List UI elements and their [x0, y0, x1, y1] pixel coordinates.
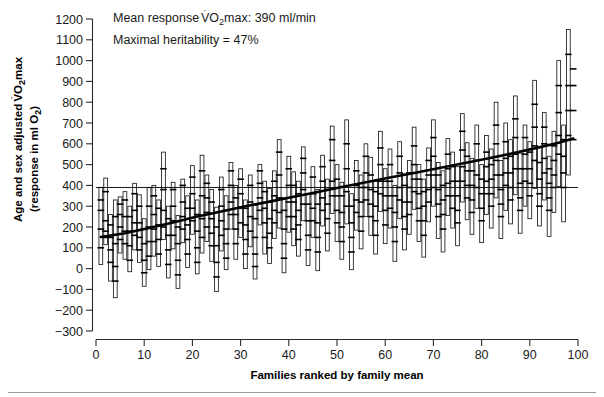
y-tick-label-200: 200: [62, 221, 83, 235]
family-range-bar: [364, 144, 368, 217]
x-tick-label-100: 100: [568, 348, 589, 362]
family-range-bar: [393, 185, 397, 261]
x-tick-label-0: 0: [93, 348, 100, 362]
family-range-bar: [244, 200, 248, 269]
x-tick-label-10: 10: [137, 348, 151, 362]
family-range-bar: [345, 120, 349, 224]
y-tick-label-0: 0: [76, 262, 83, 276]
y-tick-label-100: 100: [62, 241, 83, 255]
x-axis-tick-labels: 0102030405060708090100: [93, 348, 589, 362]
family-range-bar: [229, 163, 233, 230]
x-tick-label-40: 40: [282, 348, 296, 362]
family-range-bar: [219, 177, 223, 251]
family-range-bar: [412, 127, 416, 209]
family-range-bar: [388, 149, 392, 228]
x-tick-label-60: 60: [378, 348, 392, 362]
family-range-bar: [205, 175, 209, 242]
family-range-bars: [99, 29, 570, 297]
family-range-bar: [518, 153, 522, 233]
family-range-bar: [533, 80, 537, 188]
family-range-bar: [456, 167, 460, 246]
x-tick-label-30: 30: [234, 348, 248, 362]
family-range-bar: [350, 194, 354, 270]
family-range-bar: [359, 175, 363, 249]
family-range-bar: [480, 165, 484, 243]
y-tick-label-600: 600: [62, 137, 83, 151]
figure-container: −300−200−1000100200300400500600700800900…: [0, 0, 604, 397]
family-range-bar: [566, 29, 570, 175]
y-tick-label-700: 700: [62, 117, 83, 131]
y-axis-ticks: [86, 19, 93, 331]
y-axis-title: Age and sex adjusted ˙VO2max (response i…: [10, 56, 43, 222]
family-range-bar: [99, 187, 103, 264]
family-range-bar: [171, 182, 175, 249]
family-range-bar: [113, 200, 117, 298]
y-tick-label-300: 300: [62, 200, 83, 214]
family-range-bar: [287, 156, 291, 232]
x-tick-label-20: 20: [185, 348, 199, 362]
annotation-mean-response-text: Mean response ˙VO2max: 390 ml/min: [113, 9, 316, 27]
family-range-bar: [186, 196, 190, 268]
family-range-bar: [157, 200, 161, 267]
family-range-bar: [340, 182, 344, 259]
annotation-mean-response: Mean response ˙VO2max: 390 ml/min: [113, 9, 316, 27]
x-axis-title: Families ranked by family mean: [250, 369, 423, 381]
y-tick-label-1100: 1100: [56, 33, 83, 47]
family-range-bar: [470, 158, 474, 234]
family-range-bar: [234, 185, 238, 259]
y-tick-label-1200: 1200: [55, 13, 83, 27]
y-axis-title-line2: (response in ml O2): [28, 106, 43, 212]
y-tick-label-400: 400: [62, 179, 83, 193]
family-range-bar: [369, 157, 373, 235]
family-range-bar: [417, 165, 421, 242]
family-range-bar: [465, 143, 469, 220]
x-tick-label-70: 70: [426, 348, 440, 362]
family-range-bar: [485, 135, 489, 214]
family-range-bar: [451, 152, 455, 228]
family-range-bar: [460, 114, 464, 202]
o-glyph: O: [209, 11, 219, 25]
family-range-bar: [379, 131, 383, 211]
y-tick-label-900: 900: [62, 75, 83, 89]
y-tick-label--200: −200: [55, 304, 83, 318]
family-range-bar: [538, 147, 542, 226]
x-tick-label-90: 90: [523, 348, 537, 362]
vo2max-family-chart: −300−200−1000100200300400500600700800900…: [0, 0, 604, 397]
x-axis-ticks: [96, 340, 578, 347]
family-range-bar: [123, 192, 127, 260]
family-range-bar: [200, 155, 204, 253]
family-range-bar: [191, 166, 195, 235]
family-range-bar: [268, 189, 272, 264]
family-range-bar: [436, 163, 440, 239]
y-tick-label-1000: 1000: [55, 54, 83, 68]
family-range-bar: [557, 61, 561, 187]
family-range-bar: [316, 190, 320, 271]
family-range-bar: [181, 179, 185, 242]
y-tick-label--300: −300: [55, 325, 83, 339]
annotation-mean-response-prefix: Mean response: [113, 11, 203, 25]
family-range-bar: [504, 123, 508, 210]
family-range-bar: [499, 160, 503, 238]
x-tick-label-80: 80: [475, 348, 489, 362]
family-range-bar: [494, 102, 498, 198]
family-range-bar: [297, 181, 301, 256]
family-range-bar: [104, 178, 108, 245]
family-range-bar: [258, 165, 262, 225]
y-axis-title-line1: Age and sex adjusted ˙VO2max: [10, 56, 27, 222]
family-range-bar: [489, 149, 493, 228]
annotation-mean-response-suffix: max: 390 ml/min: [224, 11, 316, 25]
family-range-bar: [446, 139, 450, 216]
family-range-bar: [542, 113, 546, 200]
family-range-bar: [407, 160, 411, 234]
family-range-bar: [528, 142, 532, 219]
y-tick-label-800: 800: [62, 96, 83, 110]
family-range-bar: [432, 120, 436, 206]
y-tick-label-500: 500: [62, 158, 83, 172]
y-axis-tick-labels: −300−200−1000100200300400500600700800900…: [55, 13, 83, 339]
family-range-bar: [118, 197, 122, 253]
family-range-bar: [292, 172, 296, 246]
annotation-heritability: Maximal heritability = 47%: [113, 33, 259, 47]
family-range-bar: [335, 165, 339, 242]
family-range-bar: [282, 198, 286, 273]
x-tick-label-50: 50: [330, 348, 344, 362]
